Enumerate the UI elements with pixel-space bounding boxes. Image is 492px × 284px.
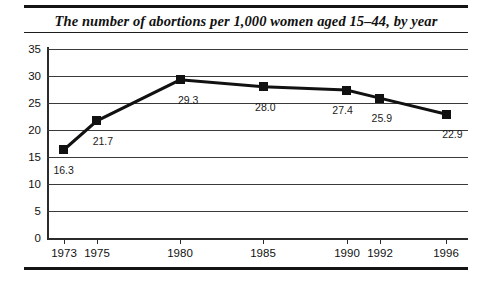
gridline-5 — [47, 211, 468, 212]
gridline-35 — [47, 49, 468, 50]
x-tick-label-1985: 1985 — [241, 247, 285, 260]
data-point-label: 29.3 — [165, 94, 211, 106]
y-tick-label-10: 10 — [7, 178, 41, 190]
x-tick-label-1975: 1975 — [75, 247, 119, 260]
y-tick-label-35: 35 — [7, 43, 41, 55]
x-tick-mark-1990 — [347, 239, 348, 244]
x-tick-mark-1985 — [263, 239, 264, 244]
data-point-label: 16.3 — [41, 164, 87, 176]
series-line-svg — [0, 0, 492, 284]
data-point-marker — [375, 94, 384, 103]
data-point-label: 28.0 — [242, 101, 288, 113]
gridline-0 — [47, 238, 468, 240]
data-point-marker — [342, 86, 351, 95]
gridline-15 — [47, 157, 468, 158]
gridline-30 — [47, 76, 468, 77]
data-point-marker — [92, 116, 101, 125]
data-point-label: 21.7 — [80, 135, 126, 147]
y-tick-label-20: 20 — [7, 124, 41, 136]
x-tick-mark-1996 — [446, 239, 447, 244]
data-point-marker — [259, 82, 268, 91]
title-underline-rule — [24, 32, 468, 33]
y-tick-label-15: 15 — [7, 151, 41, 163]
y-tick-label-30: 30 — [7, 70, 41, 82]
x-tick-mark-1980 — [180, 239, 181, 244]
chart-title: The number of abortions per 1,000 women … — [24, 10, 468, 32]
data-point-marker — [442, 110, 451, 119]
y-tick-label-25: 25 — [7, 97, 41, 109]
x-tick-label-1980: 1980 — [158, 247, 202, 260]
x-tick-mark-1992 — [380, 239, 381, 244]
data-point-marker — [176, 75, 185, 84]
bottom-rule — [24, 267, 468, 270]
x-tick-mark-1975 — [97, 239, 98, 244]
top-rule — [24, 5, 468, 8]
gridline-10 — [47, 184, 468, 185]
x-tick-mark-1973 — [64, 239, 65, 244]
x-tick-label-1996: 1996 — [424, 247, 468, 260]
x-tick-label-1992: 1992 — [358, 247, 402, 260]
gridline-20 — [47, 130, 468, 131]
chart-figure: The number of abortions per 1,000 women … — [0, 0, 492, 284]
data-point-marker — [59, 145, 68, 154]
data-point-label: 22.9 — [429, 128, 475, 140]
y-tick-label-0: 0 — [7, 232, 41, 244]
data-point-label: 25.9 — [359, 112, 405, 124]
y-tick-label-5: 5 — [7, 205, 41, 217]
